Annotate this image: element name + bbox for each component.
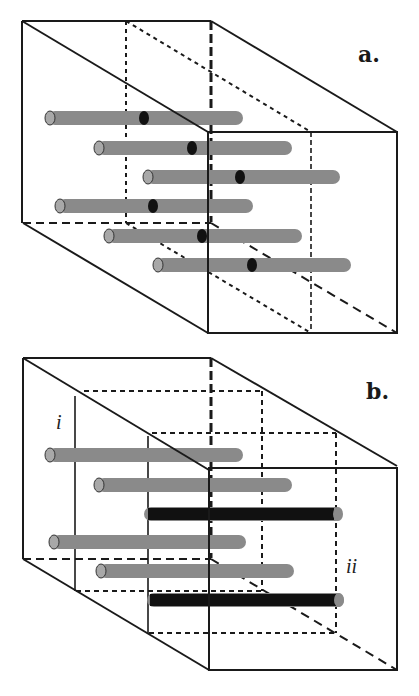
rod bbox=[55, 199, 253, 213]
rod-grey bbox=[94, 478, 292, 492]
marker-icon bbox=[235, 170, 245, 184]
rods-a bbox=[45, 111, 351, 272]
rod bbox=[45, 111, 243, 125]
panel-label-a: a. bbox=[358, 41, 380, 67]
panel-a: a. bbox=[0, 0, 419, 348]
marker-icon bbox=[139, 111, 149, 125]
marker-icon bbox=[247, 258, 257, 272]
panel-label-b: b. bbox=[366, 378, 389, 404]
rod-black bbox=[144, 507, 343, 521]
rods-b bbox=[45, 448, 344, 607]
rod bbox=[143, 170, 340, 184]
rod bbox=[94, 141, 292, 155]
subvolume-label-i: i bbox=[56, 411, 62, 433]
rod-black bbox=[147, 593, 344, 607]
rod bbox=[104, 229, 302, 243]
rod-grey bbox=[49, 535, 246, 549]
panel-b: b. i ii bbox=[0, 348, 419, 696]
rod bbox=[153, 258, 351, 272]
box-diagram-b: b. i ii bbox=[0, 348, 419, 696]
box-diagram-a: a. bbox=[0, 0, 419, 348]
rod-grey bbox=[45, 448, 243, 462]
rod-grey bbox=[96, 564, 294, 578]
subvolume-label-ii: ii bbox=[346, 555, 357, 577]
marker-icon bbox=[187, 141, 197, 155]
marker-icon bbox=[197, 229, 207, 243]
marker-icon bbox=[148, 199, 158, 213]
